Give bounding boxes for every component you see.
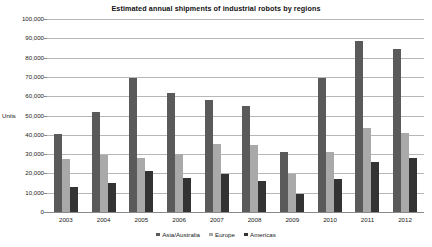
bar [62, 159, 70, 212]
y-axis-tick-label: 70,000 [0, 74, 44, 80]
y-axis-tick-label: 20,000 [0, 170, 44, 176]
bar-group [393, 19, 417, 212]
bar [363, 128, 371, 212]
bar [334, 179, 342, 212]
x-axis-tick-label: 2004 [97, 214, 111, 228]
bar [213, 144, 221, 212]
bar [242, 106, 250, 212]
bar [167, 93, 175, 212]
x-axis: 2003200420052006200720082009201020112012 [47, 214, 424, 228]
bar-group [242, 19, 266, 212]
bar-group [129, 19, 153, 212]
bar [129, 78, 137, 212]
x-axis-tick-label: 2011 [361, 214, 374, 228]
bar-group [280, 19, 304, 212]
y-axis-tick-label: 60,000 [0, 93, 44, 99]
legend-item: Europe [209, 231, 235, 238]
legend-item: Asia/Australia [156, 231, 200, 238]
bar [288, 174, 296, 212]
bar-group [167, 19, 191, 212]
plot-area [47, 19, 424, 212]
y-axis-tick-label: 40,000 [0, 132, 44, 138]
bar [145, 171, 153, 212]
y-axis-tick-label: 10,000 [0, 190, 44, 196]
x-axis-tick-label: 2009 [285, 214, 299, 228]
y-axis-tick-label: 0 [0, 209, 44, 215]
y-axis-tick-label: 100,000 [0, 16, 44, 22]
x-axis-tick-label: 2007 [210, 214, 224, 228]
legend-label: Americas [250, 231, 276, 238]
bar [296, 194, 304, 212]
y-axis-tick-label: 90,000 [0, 35, 44, 41]
bar [355, 41, 363, 212]
gridline [47, 212, 424, 213]
legend-swatch-icon [209, 233, 213, 237]
legend-swatch-icon [244, 233, 248, 237]
bar [92, 112, 100, 212]
bar [371, 162, 379, 212]
x-axis-tick-label: 2005 [134, 214, 148, 228]
bar [70, 187, 78, 212]
y-axis-title: Units [2, 113, 26, 119]
bar-group [205, 19, 229, 212]
bar [326, 152, 334, 212]
y-axis-tick-label: 80,000 [0, 55, 44, 61]
x-axis-tick-label: 2010 [323, 214, 337, 228]
bar [205, 100, 213, 212]
legend-label: Europe [215, 231, 235, 238]
x-axis-tick-label: 2003 [59, 214, 73, 228]
bar [175, 154, 183, 212]
bar [183, 178, 191, 212]
chart-legend: Asia/AustraliaEuropeAmericas [0, 231, 432, 238]
bar [318, 78, 326, 212]
bar-groups [47, 19, 424, 212]
bar [280, 152, 288, 212]
x-axis-tick-label: 2012 [398, 214, 412, 228]
bar [409, 158, 417, 212]
chart-container: Estimated annual shipments of industrial… [0, 0, 432, 247]
bar [221, 174, 229, 212]
bar [258, 181, 266, 212]
x-axis-tick-label: 2008 [248, 214, 262, 228]
legend-item: Americas [244, 231, 276, 238]
legend-label: Asia/Australia [162, 231, 200, 238]
bar [54, 134, 62, 212]
chart-title: Estimated annual shipments of industrial… [0, 4, 432, 13]
y-axis-tick-label: 30,000 [0, 151, 44, 157]
bar [137, 158, 145, 212]
bar-group [92, 19, 116, 212]
bar-group [355, 19, 379, 212]
bar [100, 155, 108, 212]
bar [401, 133, 409, 212]
bar-group [54, 19, 78, 212]
x-axis-tick-label: 2006 [172, 214, 186, 228]
bar-group [318, 19, 342, 212]
bar [250, 145, 258, 212]
bar [108, 183, 116, 212]
bar [393, 49, 401, 212]
legend-swatch-icon [156, 233, 160, 237]
